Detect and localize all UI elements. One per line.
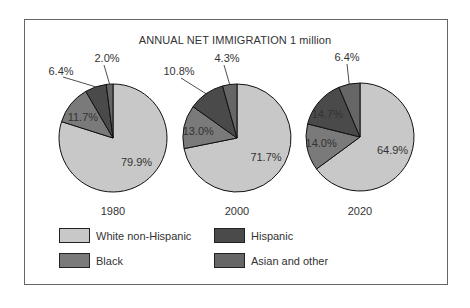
leader-line (63, 77, 96, 87)
leader-line (347, 64, 349, 84)
legend-swatch-black (59, 253, 90, 268)
legend-swatch-asian (214, 253, 245, 268)
pie-year-label-2000: 2000 (207, 205, 267, 217)
pie-value-label: 79.9% (121, 156, 152, 168)
pie-year-label-2020: 2020 (330, 205, 390, 217)
pie-value-label: 11.7% (68, 111, 99, 123)
legend-item-white: White non-Hispanic (59, 228, 191, 243)
pie-value-label: 14.7% (312, 108, 343, 120)
legend-label-hispanic: Hispanic (251, 230, 293, 242)
pie-year-label-1980: 1980 (83, 205, 143, 217)
pie-2000: 71.7%13.0%10.8%4.3% (163, 52, 291, 192)
legend-swatch-white (59, 228, 90, 243)
pie-value-label: 6.4% (48, 65, 73, 77)
legend-item-hispanic: Hispanic (214, 228, 293, 243)
legend-item-asian: Asian and other (214, 253, 328, 268)
pie-value-label: 14.0% (306, 137, 337, 149)
pie-value-label: 13.0% (183, 125, 214, 137)
leader-line (104, 65, 110, 84)
legend-item-black: Black (59, 253, 123, 268)
legend-label-white: White non-Hispanic (96, 230, 191, 242)
leader-line (224, 65, 230, 84)
leader-line (181, 78, 206, 94)
legend-label-asian: Asian and other (251, 255, 328, 267)
legend-label-black: Black (96, 255, 123, 267)
pie-2020: 64.9%14.0%14.7%6.4% (306, 51, 414, 191)
pie-value-label: 6.4% (334, 51, 359, 63)
pie-1980: 79.9%11.7%6.4%2.0% (48, 52, 167, 192)
pie-value-label: 10.8% (163, 65, 194, 77)
legend-swatch-hispanic (214, 228, 245, 243)
pie-value-label: 4.3% (214, 52, 239, 64)
pie-value-label: 2.0% (94, 52, 119, 64)
pie-value-label: 64.9% (377, 144, 408, 156)
pie-value-label: 71.7% (250, 151, 281, 163)
